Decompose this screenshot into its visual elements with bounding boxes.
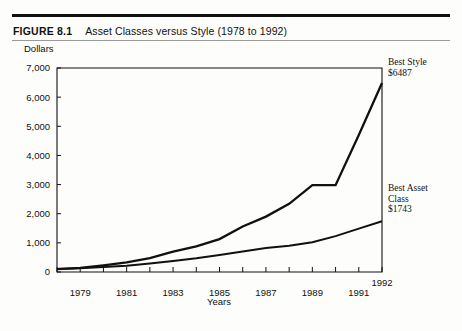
x-tick-label: 1983	[163, 287, 184, 298]
y-tick-label: 6,000	[26, 92, 50, 103]
y-tick-label: 1,000	[26, 237, 50, 248]
x-tick-label: 1987	[255, 287, 276, 298]
y-tick-group	[57, 68, 61, 272]
y-tick-label: 0	[45, 266, 50, 277]
series-group	[57, 83, 382, 269]
axis-frame	[57, 68, 382, 272]
y-tick-label-group: 01,0002,0003,0004,0005,0006,0007,000	[26, 62, 50, 277]
x-tick-label: 1989	[302, 287, 323, 298]
y-tick-label: 7,000	[26, 62, 50, 73]
chart-area: 01,0002,0003,0004,0005,0006,0007,000 197…	[0, 0, 462, 331]
x-tick-label: 1979	[70, 287, 91, 298]
figure-page: FIGURE 8.1Asset Classes versus Style (19…	[0, 0, 462, 331]
y-tick-label: 3,000	[26, 179, 50, 190]
y-tick-label: 4,000	[26, 150, 50, 161]
series-line-best-asset-class	[57, 221, 382, 269]
annotation-best-asset-class: Best Asset Class $1743	[388, 183, 428, 215]
annotation-best-style: Best Style $6487	[388, 57, 427, 78]
x-tick-label: 1991	[348, 287, 369, 298]
x-tick-label: 1992	[371, 277, 392, 288]
line-chart-svg: 01,0002,0003,0004,0005,0006,0007,000 197…	[0, 0, 462, 331]
axis-group	[57, 68, 382, 272]
series-line-best-style	[57, 83, 382, 269]
y-tick-label: 5,000	[26, 121, 50, 132]
y-tick-label: 2,000	[26, 208, 50, 219]
x-tick-label-group: 19791981198319851987198919911992	[70, 277, 393, 298]
x-tick-label: 1981	[116, 287, 137, 298]
x-axis-title: Years	[207, 296, 231, 307]
y-axis-title: Dollars	[24, 43, 54, 54]
